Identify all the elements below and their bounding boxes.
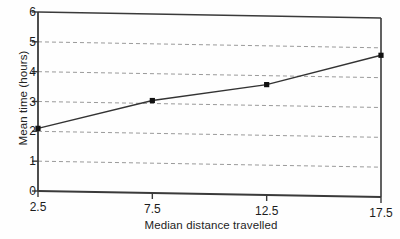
data-line xyxy=(38,55,381,128)
y-tick-label: 4 xyxy=(14,66,36,78)
x-tick-label: 7.5 xyxy=(129,202,175,216)
gridline-horizontal xyxy=(38,161,381,167)
plot-frame-top xyxy=(38,12,381,18)
x-tick-label: 2.5 xyxy=(15,200,61,214)
y-tick-label: 6 xyxy=(14,6,36,18)
y-tick-label: 3 xyxy=(14,96,36,108)
x-axis-line xyxy=(38,191,381,197)
gridline-horizontal xyxy=(38,131,381,137)
y-tick-label: 1 xyxy=(14,155,36,167)
y-tick-label: 0 xyxy=(14,185,36,197)
data-point-marker[interactable] xyxy=(35,126,40,131)
x-tick-label: 17.5 xyxy=(358,206,400,220)
gridline-horizontal xyxy=(38,42,381,48)
y-tick-label: 5 xyxy=(14,36,36,48)
y-tick-label: 2 xyxy=(14,125,36,137)
chart-figure: Mean time (hours) Median distance travel… xyxy=(0,0,400,239)
gridline-horizontal xyxy=(38,72,381,78)
data-point-marker[interactable] xyxy=(150,98,155,103)
x-tick-label: 12.5 xyxy=(244,204,290,218)
gridline-horizontal xyxy=(38,102,381,108)
data-point-marker[interactable] xyxy=(378,53,383,58)
data-point-marker[interactable] xyxy=(264,82,269,87)
